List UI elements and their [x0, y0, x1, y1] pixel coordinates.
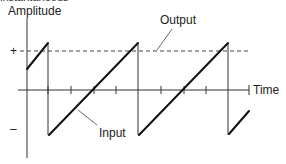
y-axis-label: Amplitude	[8, 4, 62, 18]
sawtooth-reset-lines	[48, 43, 228, 135]
x-axis-label: Time	[253, 83, 280, 97]
plus-tick-label: +	[10, 44, 17, 58]
minus-tick-label: –	[10, 122, 17, 136]
output-leader-line	[157, 29, 172, 50]
output-label: Output	[160, 13, 197, 27]
input-label: Input	[99, 126, 126, 140]
input-leader-line	[78, 110, 97, 125]
sawtooth-diagram: Amplitude Time + – Output Input	[0, 0, 286, 164]
